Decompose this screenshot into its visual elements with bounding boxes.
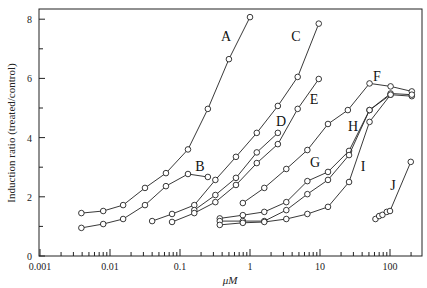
series-line bbox=[81, 174, 207, 228]
series-b bbox=[79, 171, 211, 230]
x-tick-label: 10 bbox=[315, 261, 325, 272]
data-point-marker bbox=[240, 220, 246, 226]
data-point-marker bbox=[213, 177, 219, 183]
data-point-marker bbox=[79, 225, 85, 231]
series-label-i: I bbox=[361, 159, 366, 174]
x-tick-label: 1 bbox=[248, 261, 253, 272]
data-point-marker bbox=[316, 76, 322, 82]
data-point-marker bbox=[191, 210, 197, 216]
data-point-marker bbox=[100, 221, 106, 227]
data-point-marker bbox=[295, 74, 301, 80]
data-point-marker bbox=[325, 204, 331, 210]
x-axis: 0.0010.010.1110100 bbox=[29, 249, 411, 272]
data-point-marker bbox=[120, 216, 126, 222]
series-layer bbox=[79, 14, 415, 230]
x-axis-title: μM bbox=[222, 274, 239, 286]
data-point-marker bbox=[233, 154, 239, 160]
data-point-marker bbox=[275, 130, 281, 136]
data-point-marker bbox=[261, 219, 267, 225]
data-point-marker bbox=[240, 212, 246, 218]
series-i bbox=[217, 92, 393, 228]
data-point-marker bbox=[305, 211, 311, 217]
data-point-marker bbox=[346, 152, 352, 158]
x-tick-label: 0.001 bbox=[29, 261, 52, 272]
data-point-marker bbox=[213, 192, 219, 198]
x-tick-label: 100 bbox=[383, 261, 398, 272]
y-tick-label: 8 bbox=[27, 14, 32, 25]
y-tick-label: 6 bbox=[27, 73, 32, 84]
data-point-marker bbox=[346, 179, 352, 185]
series-label-j: J bbox=[390, 178, 396, 193]
series-c bbox=[149, 21, 321, 224]
data-point-marker bbox=[325, 169, 331, 175]
data-point-marker bbox=[79, 210, 85, 216]
y-tick-label: 4 bbox=[27, 133, 32, 144]
data-point-marker bbox=[345, 107, 351, 113]
data-point-marker bbox=[367, 107, 373, 113]
data-point-marker bbox=[316, 21, 322, 27]
series-line bbox=[243, 83, 412, 203]
data-point-marker bbox=[283, 216, 289, 222]
x-tick-label: 0.1 bbox=[174, 261, 187, 272]
data-point-marker bbox=[388, 84, 394, 90]
data-point-marker bbox=[325, 177, 331, 183]
data-point-marker bbox=[325, 121, 331, 127]
data-point-marker bbox=[254, 130, 260, 136]
y-axis: 02468 bbox=[27, 14, 45, 262]
data-point-marker bbox=[217, 222, 223, 228]
data-point-marker bbox=[283, 199, 289, 205]
data-point-marker bbox=[149, 218, 155, 224]
data-point-marker bbox=[163, 183, 169, 189]
data-point-marker bbox=[283, 166, 289, 172]
data-point-marker bbox=[120, 202, 126, 208]
x-tick-label: 0.01 bbox=[101, 261, 119, 272]
data-point-marker bbox=[388, 92, 394, 98]
series-label-a: A bbox=[221, 29, 232, 44]
data-point-marker bbox=[226, 56, 232, 62]
data-point-marker bbox=[261, 209, 267, 215]
data-point-marker bbox=[169, 211, 175, 217]
data-point-marker bbox=[205, 174, 211, 180]
data-point-marker bbox=[185, 171, 191, 177]
series-d bbox=[191, 130, 280, 213]
data-point-marker bbox=[233, 175, 239, 181]
series-label-f: F bbox=[373, 69, 381, 84]
series-label-g: G bbox=[310, 155, 320, 170]
data-point-marker bbox=[240, 200, 246, 206]
data-point-marker bbox=[233, 182, 239, 188]
data-point-marker bbox=[305, 191, 311, 197]
series-label-c: C bbox=[291, 29, 300, 44]
data-point-marker bbox=[387, 208, 393, 214]
series-label-e: E bbox=[310, 92, 319, 107]
data-point-marker bbox=[254, 160, 260, 166]
series-label-d: D bbox=[276, 114, 286, 129]
data-point-marker bbox=[367, 119, 373, 125]
data-point-marker bbox=[205, 106, 211, 112]
series-line bbox=[194, 133, 278, 210]
data-point-marker bbox=[163, 170, 169, 176]
data-point-marker bbox=[213, 199, 219, 205]
series-line bbox=[152, 24, 319, 222]
data-point-marker bbox=[305, 147, 311, 153]
data-point-marker bbox=[275, 103, 281, 109]
data-point-marker bbox=[142, 185, 148, 191]
data-point-marker bbox=[142, 202, 148, 208]
data-point-marker bbox=[247, 14, 253, 20]
data-point-marker bbox=[100, 208, 106, 214]
data-point-marker bbox=[185, 147, 191, 153]
data-point-marker bbox=[283, 207, 289, 213]
data-point-marker bbox=[409, 92, 415, 98]
data-point-marker bbox=[295, 106, 301, 112]
data-point-marker bbox=[169, 219, 175, 225]
data-point-marker bbox=[367, 81, 373, 87]
series-label-b: B bbox=[195, 159, 204, 174]
series-label-h: H bbox=[348, 119, 358, 134]
series-line bbox=[172, 79, 319, 222]
plot-frame bbox=[39, 9, 422, 256]
induction-ratio-chart: 02468 0.0010.010.1110100 Induction ratio… bbox=[0, 0, 427, 288]
y-axis-title: Induction ratio (treated/control) bbox=[5, 63, 18, 203]
data-point-marker bbox=[254, 150, 260, 156]
y-tick-label: 2 bbox=[27, 192, 32, 203]
data-point-marker bbox=[408, 159, 414, 165]
data-point-marker bbox=[305, 178, 311, 184]
